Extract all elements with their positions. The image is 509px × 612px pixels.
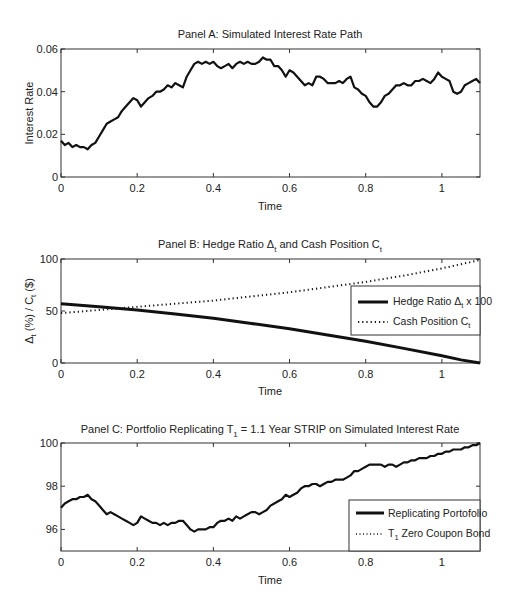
x-tick-label: 0 [58, 368, 64, 380]
panel-a-x-label: Time [258, 200, 282, 212]
y-tick-label: 0.04 [37, 86, 58, 98]
x-tick-label: 0.2 [130, 556, 145, 568]
y-tick-label: 0.06 [37, 43, 58, 55]
panel-b-title: Panel B: Hedge Ratio Δt and Cash Positio… [158, 238, 383, 254]
y-tick-label: 0 [52, 357, 58, 369]
x-tick-label: 0.4 [206, 182, 221, 194]
y-tick-label: 98 [46, 480, 58, 492]
x-tick-label: 0.8 [358, 182, 373, 194]
y-tick-label: 0.02 [37, 128, 58, 140]
panel-a-x-ticks: 00.20.40.60.81 [58, 49, 445, 194]
x-tick-label: 0.8 [358, 556, 373, 568]
panel-b-y-label: Δt (%) / Ct ($) [23, 278, 38, 344]
x-tick-label: 1 [439, 368, 445, 380]
x-tick-label: 0.6 [282, 368, 297, 380]
panel-a-title: Panel A: Simulated Interest Rate Path [178, 28, 363, 40]
x-tick-label: 0 [58, 182, 64, 194]
interest-rate-line [61, 58, 480, 150]
figure: Panel A: Simulated Interest Rate Path 00… [0, 0, 509, 612]
panel-a-y-label: Interest Rate [23, 82, 35, 145]
panel-a-y-ticks: 00.020.040.06 [37, 43, 480, 183]
x-tick-label: 0.8 [358, 368, 373, 380]
panel-c-legend: Replicating Portofolio T1 Zero Coupon Bo… [349, 500, 490, 551]
panel-b-legend-box [351, 286, 480, 335]
panel-c-title: Panel C: Portfolio Replicating T1 = 1.1 … [81, 423, 460, 439]
x-tick-label: 1 [439, 182, 445, 194]
panel-c-x-label: Time [258, 574, 282, 586]
panel-a-axes-box [61, 49, 480, 177]
panel-b-x-label: Time [258, 385, 282, 397]
y-tick-label: 100 [40, 253, 58, 265]
x-tick-label: 0.6 [282, 556, 297, 568]
legend-replicating-portfolio: Replicating Portofolio [388, 507, 487, 519]
panel-b-legend: Hedge Ratio Δt x 100 Cash Position Ct [351, 286, 492, 335]
x-tick-label: 0.2 [130, 368, 145, 380]
x-tick-label: 0 [58, 556, 64, 568]
x-tick-label: 0.4 [206, 368, 221, 380]
y-tick-label: 50 [46, 305, 58, 317]
y-tick-label: 0 [52, 171, 58, 183]
x-tick-label: 0.6 [282, 182, 297, 194]
panel-b: Panel B: Hedge Ratio Δt and Cash Positio… [23, 238, 492, 397]
y-tick-label: 96 [46, 523, 58, 535]
panel-a: Panel A: Simulated Interest Rate Path 00… [23, 28, 480, 212]
y-tick-label: 100 [40, 437, 58, 449]
x-tick-label: 1 [439, 556, 445, 568]
x-tick-label: 0.2 [130, 182, 145, 194]
panel-c: Panel C: Portfolio Replicating T1 = 1.1 … [40, 423, 491, 586]
x-tick-label: 0.4 [206, 556, 221, 568]
